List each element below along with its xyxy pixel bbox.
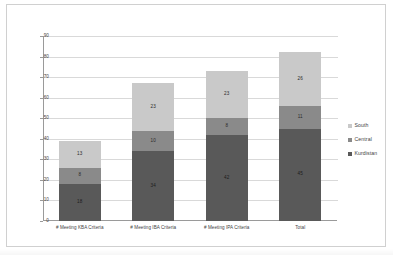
bar-segment[interactable]: 34 bbox=[132, 151, 174, 221]
bar-segment[interactable]: 8 bbox=[206, 118, 248, 134]
x-tick-label: # Meeting IBA Criteria bbox=[117, 226, 191, 231]
scan-shadow bbox=[0, 249, 393, 255]
legend-label: Kurdistan bbox=[355, 151, 378, 156]
legend-swatch-icon bbox=[348, 152, 352, 156]
bar-segment[interactable]: 13 bbox=[59, 141, 101, 168]
x-tick-label: # Meeting KBA Criteria bbox=[43, 226, 117, 231]
bar-segment[interactable]: 23 bbox=[132, 83, 174, 130]
bar-value-label: 8 bbox=[78, 173, 81, 178]
bar-value-label: 8 bbox=[225, 124, 228, 129]
bar-segment[interactable]: 42 bbox=[206, 135, 248, 221]
bars-layer: 1381823103423842261145 bbox=[43, 36, 337, 221]
chart-legend: SouthCentralKurdistan bbox=[348, 119, 393, 161]
bar-group[interactable]: 231034 bbox=[132, 83, 174, 221]
bar-group[interactable]: 13818 bbox=[59, 141, 101, 221]
bar-segment[interactable]: 23 bbox=[206, 71, 248, 118]
legend-swatch-icon bbox=[348, 138, 352, 142]
bar-value-label: 34 bbox=[151, 184, 156, 189]
stacked-bar-chart: 9080706050403020100 13818231034238422611… bbox=[0, 0, 393, 255]
bar-segment[interactable]: 8 bbox=[59, 168, 101, 184]
y-tick-mark bbox=[40, 221, 43, 222]
bar-value-label: 23 bbox=[151, 105, 156, 110]
legend-label: Central bbox=[355, 137, 372, 142]
chart-frame: 9080706050403020100 13818231034238422611… bbox=[6, 4, 386, 247]
bar-value-label: 13 bbox=[77, 152, 82, 157]
legend-item[interactable]: Kurdistan bbox=[348, 147, 393, 161]
legend-item[interactable]: South bbox=[348, 119, 393, 133]
x-tick-label: Total bbox=[264, 226, 338, 231]
bar-group[interactable]: 261145 bbox=[279, 52, 321, 221]
legend-swatch-icon bbox=[348, 124, 352, 128]
bar-value-label: 18 bbox=[77, 200, 82, 205]
bar-value-label: 11 bbox=[298, 115, 303, 120]
bar-group[interactable]: 23842 bbox=[206, 71, 248, 221]
x-tick-label: # Meeting IPA Criteria bbox=[190, 226, 264, 231]
bar-value-label: 42 bbox=[224, 176, 229, 181]
legend-item[interactable]: Central bbox=[348, 133, 393, 147]
bar-segment[interactable]: 18 bbox=[59, 184, 101, 221]
bar-value-label: 26 bbox=[298, 77, 303, 82]
bar-segment[interactable]: 45 bbox=[279, 129, 321, 222]
bar-segment[interactable]: 26 bbox=[279, 52, 321, 105]
bar-segment[interactable]: 10 bbox=[132, 131, 174, 152]
bar-value-label: 45 bbox=[298, 172, 303, 177]
legend-label: South bbox=[355, 123, 369, 128]
bar-value-label: 23 bbox=[224, 92, 229, 97]
bar-segment[interactable]: 11 bbox=[279, 106, 321, 129]
bar-value-label: 10 bbox=[151, 139, 156, 144]
